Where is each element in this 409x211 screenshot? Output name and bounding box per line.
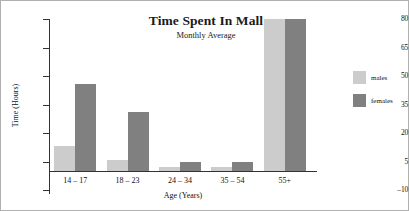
bar-females [75, 84, 96, 171]
x-axis-tick-label: 18 – 23 [101, 176, 153, 185]
legend-item[interactable]: males [353, 71, 393, 84]
x-axis-tick-label: 24 – 34 [154, 176, 206, 185]
x-axis-tick-label: 35 – 54 [206, 176, 258, 185]
bar-females [285, 19, 306, 171]
bar-group [206, 19, 258, 171]
y-axis-label: Time (Hours) [11, 58, 20, 154]
y-axis-tick-label: –10 [368, 186, 408, 194]
bar-males [54, 146, 75, 171]
x-axis-tick-label: 55+ [259, 176, 311, 185]
x-axis-line [49, 171, 317, 172]
bar-males [107, 160, 128, 171]
plot-area [49, 19, 311, 171]
y-axis-tick-label: 65 [368, 44, 408, 52]
y-axis-tick-label: 5 [368, 158, 408, 166]
legend-item[interactable]: females [353, 94, 393, 107]
bar-group [49, 19, 101, 171]
bar-males [159, 167, 180, 171]
x-axis-tick-label: 14 – 17 [49, 176, 101, 185]
y-axis-tick-label: 20 [368, 129, 408, 137]
chart-legend: malesfemales [353, 71, 393, 117]
bar-females [128, 112, 149, 171]
chart-figure: Time Spent In Mall Monthly Average 80655… [0, 0, 409, 211]
legend-label: females [371, 97, 393, 105]
bar-group [259, 19, 311, 171]
legend-swatch-males [353, 71, 366, 84]
bar-females [232, 162, 253, 172]
bar-males [211, 167, 232, 171]
bar-group [154, 19, 206, 171]
bar-females [180, 162, 201, 172]
x-axis-label: Age (Years) [49, 191, 317, 200]
y-axis-label-wrap: Time (Hours) [0, 59, 19, 159]
bar-males [264, 19, 285, 171]
legend-swatch-females [353, 94, 366, 107]
legend-label: males [371, 74, 387, 82]
bar-group [101, 19, 153, 171]
y-axis-tick-label: 80 [368, 15, 408, 23]
